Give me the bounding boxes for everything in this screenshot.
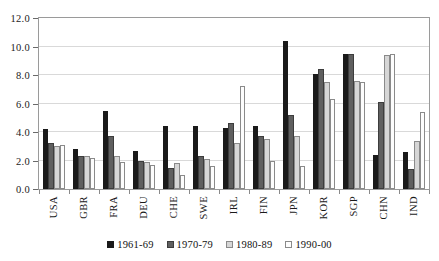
x-axis-tick bbox=[39, 190, 40, 194]
legend-swatch-icon bbox=[285, 241, 292, 248]
bar bbox=[288, 115, 293, 189]
bar-group bbox=[309, 18, 339, 189]
x-axis-tick bbox=[69, 190, 70, 194]
x-axis-tick bbox=[189, 190, 190, 194]
bar-groups bbox=[39, 18, 429, 189]
bar bbox=[283, 41, 288, 189]
bar bbox=[174, 163, 179, 189]
bar bbox=[163, 126, 168, 189]
y-axis-tick-label: 2.0 bbox=[16, 155, 30, 166]
x-axis-labels: USAGBRFRADEUCHESWEIRLFINJPNKORSGPCHNIND bbox=[39, 196, 429, 236]
legend-swatch-icon bbox=[167, 241, 174, 248]
bar bbox=[354, 81, 359, 189]
bar-group bbox=[189, 18, 219, 189]
x-axis-category-label: FIN bbox=[258, 196, 269, 214]
x-axis-category-label: FRA bbox=[108, 196, 119, 218]
bar bbox=[60, 145, 65, 189]
x-axis-category-label: SGP bbox=[348, 196, 359, 216]
bar bbox=[120, 162, 125, 189]
x-axis-tick bbox=[369, 190, 370, 194]
chart-container: 12.010.08.06.04.02.00.0 USAGBRFRADEUCHES… bbox=[0, 0, 439, 261]
y-axis-tick-label: 12.0 bbox=[10, 13, 30, 24]
x-axis-tick bbox=[129, 190, 130, 194]
bar bbox=[420, 112, 425, 189]
legend-swatch-icon bbox=[226, 241, 233, 248]
bar bbox=[330, 99, 335, 189]
bar bbox=[264, 139, 269, 189]
x-axis-category-label: CHN bbox=[378, 196, 389, 219]
x-axis-category-label: GBR bbox=[78, 196, 89, 219]
bar bbox=[180, 175, 185, 189]
bar bbox=[294, 136, 299, 189]
bar-group bbox=[39, 18, 69, 189]
chart-legend: 1961-691970-791980-891990-00 bbox=[0, 235, 439, 253]
x-axis-category-label: USA bbox=[48, 196, 59, 218]
bar bbox=[390, 54, 395, 189]
x-axis-tick bbox=[99, 190, 100, 194]
x-axis-category-label: IND bbox=[408, 196, 419, 216]
bar bbox=[108, 136, 113, 189]
bar bbox=[43, 129, 48, 189]
legend-swatch-icon bbox=[107, 241, 114, 248]
bar-group bbox=[69, 18, 99, 189]
bar-group bbox=[159, 18, 189, 189]
legend-item: 1990-00 bbox=[285, 239, 331, 250]
bar bbox=[138, 161, 143, 190]
x-axis-tick bbox=[159, 190, 160, 194]
x-axis-tick bbox=[309, 190, 310, 194]
x-axis-tick bbox=[249, 190, 250, 194]
bar bbox=[313, 74, 318, 189]
y-axis-tick-label: 0.0 bbox=[16, 184, 30, 195]
bar bbox=[228, 123, 233, 189]
x-axis-category-label: SWE bbox=[198, 196, 209, 219]
bar bbox=[318, 69, 323, 189]
bar bbox=[198, 156, 203, 189]
bar bbox=[90, 158, 95, 189]
legend-label: 1970-79 bbox=[177, 239, 213, 250]
legend-label: 1980-89 bbox=[236, 239, 272, 250]
bar bbox=[150, 165, 155, 189]
bar bbox=[343, 54, 348, 189]
y-axis-tick-label: 8.0 bbox=[16, 70, 30, 81]
x-axis-category-label: JPN bbox=[288, 196, 299, 215]
bar bbox=[84, 156, 89, 189]
bar bbox=[210, 166, 215, 189]
y-axis-tick-label: 6.0 bbox=[16, 98, 30, 109]
bar bbox=[234, 143, 239, 189]
bar bbox=[373, 155, 378, 189]
bar bbox=[204, 159, 209, 189]
bar bbox=[133, 151, 138, 189]
bar bbox=[73, 149, 78, 189]
bar-group bbox=[369, 18, 399, 189]
bar-group bbox=[219, 18, 249, 189]
bar bbox=[78, 156, 83, 189]
legend-item: 1970-79 bbox=[167, 239, 213, 250]
legend-item: 1980-89 bbox=[226, 239, 272, 250]
x-axis-category-label: IRL bbox=[228, 196, 239, 214]
bar-group bbox=[129, 18, 159, 189]
x-axis-tick bbox=[219, 190, 220, 194]
bar bbox=[408, 169, 413, 189]
bar-group bbox=[399, 18, 429, 189]
x-axis-tick bbox=[279, 190, 280, 194]
bar bbox=[348, 54, 353, 189]
bar bbox=[360, 82, 365, 189]
bar bbox=[144, 162, 149, 189]
bar bbox=[324, 82, 329, 189]
x-axis-category-label: CHE bbox=[168, 196, 179, 218]
bar bbox=[270, 161, 275, 190]
bar bbox=[258, 136, 263, 189]
bar bbox=[300, 166, 305, 189]
bar-group bbox=[99, 18, 129, 189]
bar bbox=[253, 126, 258, 189]
bar bbox=[403, 152, 408, 189]
bar bbox=[223, 128, 228, 189]
x-axis-category-label: DEU bbox=[138, 196, 149, 219]
x-axis-ticks bbox=[39, 190, 429, 195]
bar bbox=[168, 168, 173, 189]
bar bbox=[414, 141, 419, 189]
y-axis-tick-label: 4.0 bbox=[16, 127, 30, 138]
bar bbox=[103, 111, 108, 189]
y-axis-tick-label: 10.0 bbox=[10, 41, 30, 52]
bar-group bbox=[279, 18, 309, 189]
